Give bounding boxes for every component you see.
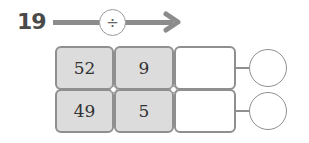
divisor-cell-1: 9 <box>114 46 174 90</box>
connector-line-2 <box>236 110 249 112</box>
dividend-cell-2: 49 <box>55 89 114 133</box>
connector-line-1 <box>236 67 249 69</box>
quotient-input-1[interactable] <box>174 46 236 90</box>
divide-icon: ÷ <box>99 9 126 36</box>
joint-dot <box>170 86 177 93</box>
joint-dot <box>110 86 117 93</box>
remainder-input-1[interactable] <box>249 49 287 87</box>
dividend-cell-1: 52 <box>55 46 114 90</box>
divisor-cell-2: 5 <box>114 89 174 133</box>
remainder-input-2[interactable] <box>249 92 287 130</box>
arrow-right-icon <box>162 11 184 33</box>
problem-number: 19 <box>17 9 46 34</box>
quotient-input-2[interactable] <box>174 89 236 133</box>
